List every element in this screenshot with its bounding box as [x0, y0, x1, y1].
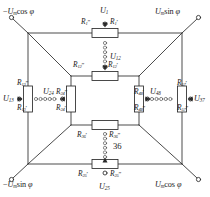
bead-chains — [34, 41, 172, 158]
terminal-node-bottom-right[interactable] — [196, 177, 200, 181]
resistor-label-r25-single: R25′ — [78, 170, 88, 178]
resistor-label-r48-double: R48″ — [134, 104, 145, 112]
resistor-label-r36-single: R36′ — [77, 131, 87, 139]
voltage-label-u1: U1 — [100, 7, 108, 15]
resistor-r1[interactable] — [92, 29, 118, 38]
resistor-label-r36-double: R36″ — [109, 131, 120, 139]
resistor-label-r13-single: R13′ — [17, 104, 27, 112]
terminal-node-top-right[interactable] — [196, 15, 200, 19]
resistor-label-r12-double: R12″ — [73, 61, 84, 69]
terminal-label-top-left: −Umcos φ — [3, 8, 34, 16]
voltage-label-u25: U25 — [99, 183, 110, 191]
figure-annotation-number: 36 — [113, 142, 121, 151]
terminal-label-top-right: Umsin φ — [155, 8, 180, 16]
terminal-label-bottom-right: Umcos φ — [155, 181, 181, 189]
resistor-label-r48-single: R48′ — [134, 88, 144, 96]
terminal-label-bottom-left: −Umsin φ — [3, 181, 32, 189]
resistor-label-r13-double: R13″ — [17, 79, 28, 87]
resistor-label-r57-single: R57′ — [177, 79, 187, 87]
resistor-label-r24-double: R24″ — [56, 88, 67, 96]
resistor-label-r12-single: R12′ — [108, 61, 118, 69]
resistor-label-r24-single: R24′ — [56, 104, 66, 112]
tap-node-u25 — [103, 171, 107, 175]
voltage-label-u37: U37 — [194, 95, 205, 103]
voltage-label-u48: U48 — [150, 88, 161, 96]
resistor-r36[interactable] — [92, 121, 118, 130]
resistor-r24[interactable] — [67, 86, 76, 112]
resistor-label-r1-single: R1′ — [110, 18, 118, 26]
resistor-r12[interactable] — [92, 72, 118, 81]
resistor-label-r25-double: R25″ — [110, 170, 121, 178]
inner-frame — [71, 76, 139, 125]
voltage-label-u24: U24 — [43, 88, 54, 96]
voltage-label-u13: U13 — [3, 95, 14, 103]
resistor-label-r1-double: R1″ — [81, 18, 90, 26]
figure-canvas: −Umcos φ Umsin φ −Umsin φ Umcos φ U1 U12… — [0, 0, 210, 197]
resistor-label-r57-double: R57″ — [177, 104, 188, 112]
circuit-schematic — [0, 0, 210, 197]
